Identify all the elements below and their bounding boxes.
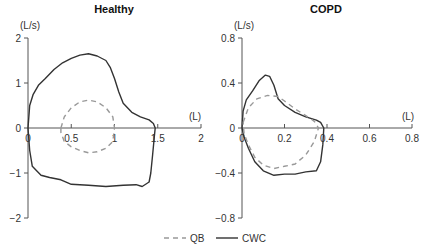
y-tick-label: −0.4 xyxy=(215,168,235,179)
legend: QB CWC xyxy=(164,233,266,244)
healthy-axes xyxy=(24,38,201,218)
y-tick-label: 0 xyxy=(15,123,21,134)
cwc-loop xyxy=(242,75,324,175)
x-tick-label: 0.6 xyxy=(363,133,377,144)
x-tick-label: 1 xyxy=(112,133,118,144)
x-tick-label: 0.8 xyxy=(405,133,419,144)
y-tick-label: 0.8 xyxy=(221,33,235,44)
x-tick-label: 2 xyxy=(198,133,204,144)
copd-title: COPD xyxy=(310,3,342,15)
healthy-plot-area xyxy=(28,54,155,187)
y-tick-label: 1 xyxy=(15,78,21,89)
cwc-loop xyxy=(28,54,155,187)
healthy-title: Healthy xyxy=(94,3,135,15)
qb-loop xyxy=(61,100,115,153)
y-tick-label: 2 xyxy=(15,33,21,44)
y-tick-label: −2 xyxy=(10,213,22,224)
healthy-panel: Healthy (L/s) (L) 210−1−200.511.52 xyxy=(10,3,205,224)
x-tick-label: 0.5 xyxy=(64,133,78,144)
y-tick-label: −0.8 xyxy=(215,213,235,224)
y-tick-label: 0.4 xyxy=(221,78,235,89)
x-tick-label: 0.2 xyxy=(278,133,292,144)
copd-y-unit: (L/s) xyxy=(234,20,254,31)
copd-axes xyxy=(238,38,412,218)
legend-qb-label: QB xyxy=(190,233,205,244)
healthy-y-unit: (L/s) xyxy=(20,20,40,31)
y-tick-label: −1 xyxy=(10,168,22,179)
x-tick-label: 1.5 xyxy=(151,133,165,144)
x-tick-label: 0.4 xyxy=(320,133,334,144)
qb-loop xyxy=(243,95,318,168)
healthy-x-unit: (L) xyxy=(189,111,201,122)
copd-panel: COPD (L/s) (L) 0.80.40−0.4−0.800.20.40.6… xyxy=(215,3,419,224)
legend-cwc-label: CWC xyxy=(242,233,266,244)
y-tick-label: 0 xyxy=(229,123,235,134)
copd-plot-area xyxy=(242,75,324,175)
copd-x-unit: (L) xyxy=(402,111,414,122)
figure: Healthy (L/s) (L) 210−1−200.511.52 COPD … xyxy=(0,0,424,249)
